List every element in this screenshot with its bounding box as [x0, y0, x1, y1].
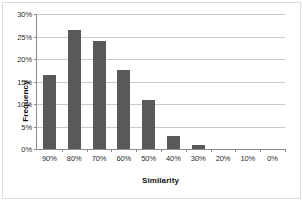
y-tick-label: 30% — [17, 10, 32, 19]
x-tick-mark — [62, 149, 63, 152]
plot-area: 0%5%10%15%20%25%30% 90%80%70%60%50%40%30… — [36, 14, 285, 150]
x-tick-label: 70% — [92, 154, 107, 163]
x-tick-mark — [186, 149, 187, 152]
y-tick-mark — [34, 59, 37, 60]
x-tick-label: 60% — [116, 154, 131, 163]
frequency-similarity-bar-chart: Frequency 0%5%10%15%20%25%30% 90%80%70%6… — [0, 0, 303, 202]
x-tick-label: 50% — [141, 154, 156, 163]
bar — [167, 136, 180, 150]
bar — [142, 100, 155, 150]
y-tick-label: 10% — [17, 100, 32, 109]
x-tick-mark — [111, 149, 112, 152]
x-tick-mark — [260, 149, 261, 152]
bar — [117, 70, 130, 149]
x-tick-mark — [136, 149, 137, 152]
y-tick-label: 15% — [17, 77, 32, 86]
bar — [68, 30, 81, 149]
x-tick-mark — [285, 149, 286, 152]
x-tick-label: 20% — [216, 154, 231, 163]
x-tick-label: 80% — [67, 154, 82, 163]
x-tick-label: 40% — [166, 154, 181, 163]
x-tick-mark — [211, 149, 212, 152]
x-tick-mark — [87, 149, 88, 152]
bar — [93, 41, 106, 149]
y-tick-mark — [34, 14, 37, 15]
x-tick-label: 90% — [42, 154, 57, 163]
gridline — [37, 14, 285, 15]
x-tick-mark — [161, 149, 162, 152]
bar — [192, 145, 205, 150]
y-tick-mark — [34, 82, 37, 83]
y-tick-mark — [34, 104, 37, 105]
x-tick-label: 10% — [240, 154, 255, 163]
x-tick-label: 0% — [267, 154, 278, 163]
y-tick-mark — [34, 37, 37, 38]
x-tick-label: 30% — [191, 154, 206, 163]
y-tick-label: 5% — [21, 122, 32, 131]
y-tick-mark — [34, 149, 37, 150]
y-tick-label: 20% — [17, 55, 32, 64]
x-axis-title: Similarity — [36, 176, 285, 185]
y-tick-label: 0% — [21, 145, 32, 154]
x-tick-mark — [235, 149, 236, 152]
y-tick-mark — [34, 127, 37, 128]
bar — [43, 75, 56, 149]
y-tick-label: 25% — [17, 32, 32, 41]
